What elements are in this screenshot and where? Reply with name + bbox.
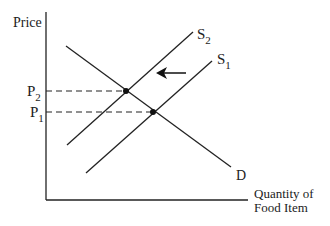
equilibrium-point-1	[150, 109, 156, 115]
s2-label: S2	[197, 26, 211, 46]
p1-label: P1	[30, 104, 44, 124]
supply-curve-s2	[67, 32, 193, 145]
p2-label: P2	[27, 83, 41, 103]
x-axis-label-line1: Quantity of	[254, 186, 314, 201]
y-axis-label: Price	[13, 15, 42, 30]
supply-curve-s1	[86, 61, 212, 173]
demand-label: D	[236, 168, 246, 183]
supply-demand-diagram: Price P2 P1 S2 S1 D Quantity of Food Ite…	[0, 0, 330, 226]
x-axis-label-line2: Food Item	[254, 200, 308, 215]
shift-left-arrow-icon	[156, 67, 186, 79]
equilibrium-point-2	[123, 88, 129, 94]
s1-label: S1	[217, 51, 231, 71]
demand-curve	[66, 46, 231, 167]
